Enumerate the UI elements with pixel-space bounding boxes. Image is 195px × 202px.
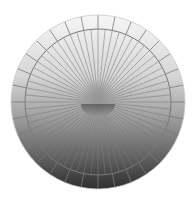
center-core (78, 80, 118, 120)
sphere-illustration (0, 0, 195, 202)
radial-sphere-graphic (0, 0, 195, 202)
